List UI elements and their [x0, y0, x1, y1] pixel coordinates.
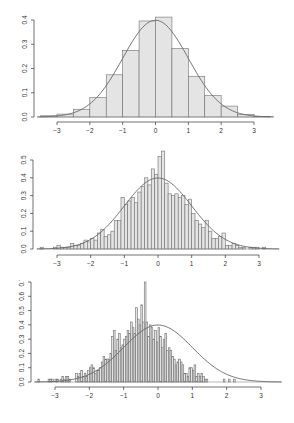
bars [41, 17, 271, 117]
bar [206, 379, 208, 382]
bar [108, 235, 111, 249]
y-tick-label: 0.0 [18, 377, 25, 386]
y-tick-label: 0.1 [18, 363, 25, 372]
bar [131, 197, 134, 249]
y-tick-label: 0.3 [18, 334, 25, 343]
x-tick-label: 3 [252, 127, 256, 134]
bar [123, 50, 139, 117]
bar [111, 231, 114, 249]
x-tick-label: −3 [53, 127, 61, 134]
x-tick-label: −3 [51, 392, 59, 399]
bar [178, 197, 181, 249]
bar [97, 233, 100, 249]
bar [91, 238, 94, 249]
bar [172, 49, 188, 117]
bar [188, 199, 191, 249]
bar [145, 178, 148, 249]
bar [156, 17, 172, 117]
bar [90, 98, 106, 117]
bar [171, 196, 174, 249]
bar [94, 240, 97, 249]
bar [158, 156, 161, 249]
bar [128, 201, 131, 249]
bar [192, 213, 195, 249]
bar [124, 205, 127, 250]
bar [155, 174, 158, 249]
bar [73, 109, 89, 117]
bar [81, 244, 84, 249]
bar [232, 244, 235, 249]
x-tick-label: 3 [257, 260, 261, 267]
bar [151, 169, 154, 249]
y-tick-label: 0.4 [21, 15, 28, 24]
x-tick-label: −2 [86, 392, 94, 399]
x-tick-label: −2 [86, 127, 94, 134]
x-tick-label: 0 [156, 392, 160, 399]
y-tick-label: 0.6 [18, 291, 25, 300]
x-tick-label: −2 [87, 260, 95, 267]
y-tick-label: 0.2 [21, 64, 28, 73]
x-tick-label: 1 [191, 392, 195, 399]
histogram-chart-1: −3−2−101230.00.10.20.30.4 [0, 0, 294, 140]
y-tick-label: 0.3 [20, 191, 27, 200]
x-tick-label: 2 [225, 392, 229, 399]
bar [212, 238, 215, 249]
bar [219, 237, 222, 249]
bar [141, 187, 144, 249]
x-tick-label: −3 [53, 260, 61, 267]
x-tick-label: 1 [187, 127, 191, 134]
bar [118, 221, 121, 249]
x-tick-label: 3 [259, 392, 263, 399]
y-tick-label: 0.1 [21, 88, 28, 97]
bar [134, 203, 137, 249]
bar [209, 231, 212, 249]
y-tick-label: 0.0 [20, 244, 27, 253]
y-tick-label: 0.5 [18, 306, 25, 315]
y-tick-label: 0.5 [20, 155, 27, 164]
bar [175, 194, 178, 249]
bar [235, 245, 238, 249]
x-tick-label: −1 [120, 392, 128, 399]
bar [223, 379, 225, 382]
y-tick-label: 0.0 [21, 112, 28, 121]
bar [228, 379, 230, 382]
x-tick-label: 2 [224, 260, 228, 267]
bar [185, 205, 188, 250]
bar [114, 221, 117, 249]
x-tick-label: −1 [121, 260, 129, 267]
y-tick-label: 0.3 [21, 39, 28, 48]
x-tick-label: 0 [156, 260, 160, 267]
x-tick-label: 1 [190, 260, 194, 267]
bar [139, 21, 155, 117]
bar [168, 194, 171, 249]
bar [205, 96, 221, 117]
bars [38, 282, 235, 382]
bar [148, 185, 151, 249]
histogram-chart-2: −3−2−101230.00.10.20.30.40.5 [0, 140, 294, 280]
y-tick-label: 0.7 [18, 280, 25, 287]
histogram-chart-3: −3−2−101230.00.10.20.30.40.50.60.7 [0, 280, 294, 423]
x-tick-label: 0 [154, 127, 158, 134]
bar [202, 228, 205, 249]
bar [77, 245, 80, 249]
y-tick-label: 0.4 [20, 173, 27, 182]
bar [87, 242, 90, 249]
y-tick-label: 0.2 [18, 349, 25, 358]
bar [234, 379, 236, 382]
y-tick-label: 0.1 [20, 226, 27, 235]
bar [229, 245, 232, 249]
y-tick-label: 0.4 [18, 320, 25, 329]
bar [222, 233, 225, 249]
x-tick-label: −1 [119, 127, 127, 134]
bar [182, 196, 185, 249]
bar [198, 224, 201, 249]
x-tick-label: 2 [219, 127, 223, 134]
bar [215, 238, 218, 249]
bar [138, 192, 141, 249]
bar [165, 183, 168, 249]
bar [104, 237, 107, 249]
bar [161, 151, 164, 249]
y-tick-label: 0.2 [20, 209, 27, 218]
bar [195, 221, 198, 249]
bars [40, 151, 266, 249]
